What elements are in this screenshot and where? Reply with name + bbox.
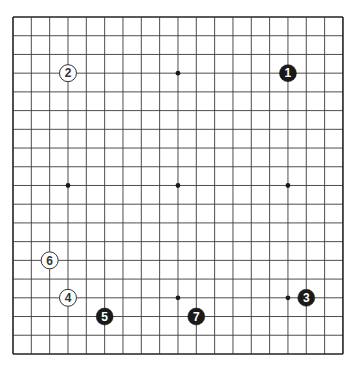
move-number: 2: [65, 66, 72, 80]
black-stone[interactable]: 3: [298, 289, 315, 306]
star-point: [66, 183, 71, 188]
white-stone[interactable]: 6: [41, 252, 58, 269]
white-stone[interactable]: 4: [59, 289, 76, 306]
star-point: [176, 183, 181, 188]
black-stone[interactable]: 5: [96, 308, 113, 325]
move-number: 3: [303, 291, 310, 305]
white-stone[interactable]: 2: [59, 65, 76, 82]
star-point: [176, 295, 181, 300]
star-point: [286, 183, 291, 188]
star-point: [286, 295, 291, 300]
black-stone[interactable]: 7: [188, 308, 205, 325]
move-number: 6: [46, 254, 53, 268]
move-number: 4: [65, 291, 72, 305]
go-board[interactable]: 1234567: [0, 0, 356, 366]
move-number: 1: [285, 66, 292, 80]
star-point: [176, 71, 181, 76]
move-number: 7: [193, 310, 200, 324]
black-stone[interactable]: 1: [279, 65, 296, 82]
move-number: 5: [101, 310, 108, 324]
